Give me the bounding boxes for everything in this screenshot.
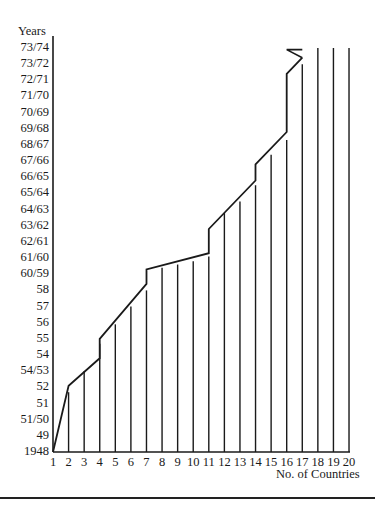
plot-area [0,0,375,510]
break-marker [287,50,303,58]
bottom-divider-rule [0,497,375,499]
chart: Years No. of Countries 19484951/50515254… [0,0,375,510]
